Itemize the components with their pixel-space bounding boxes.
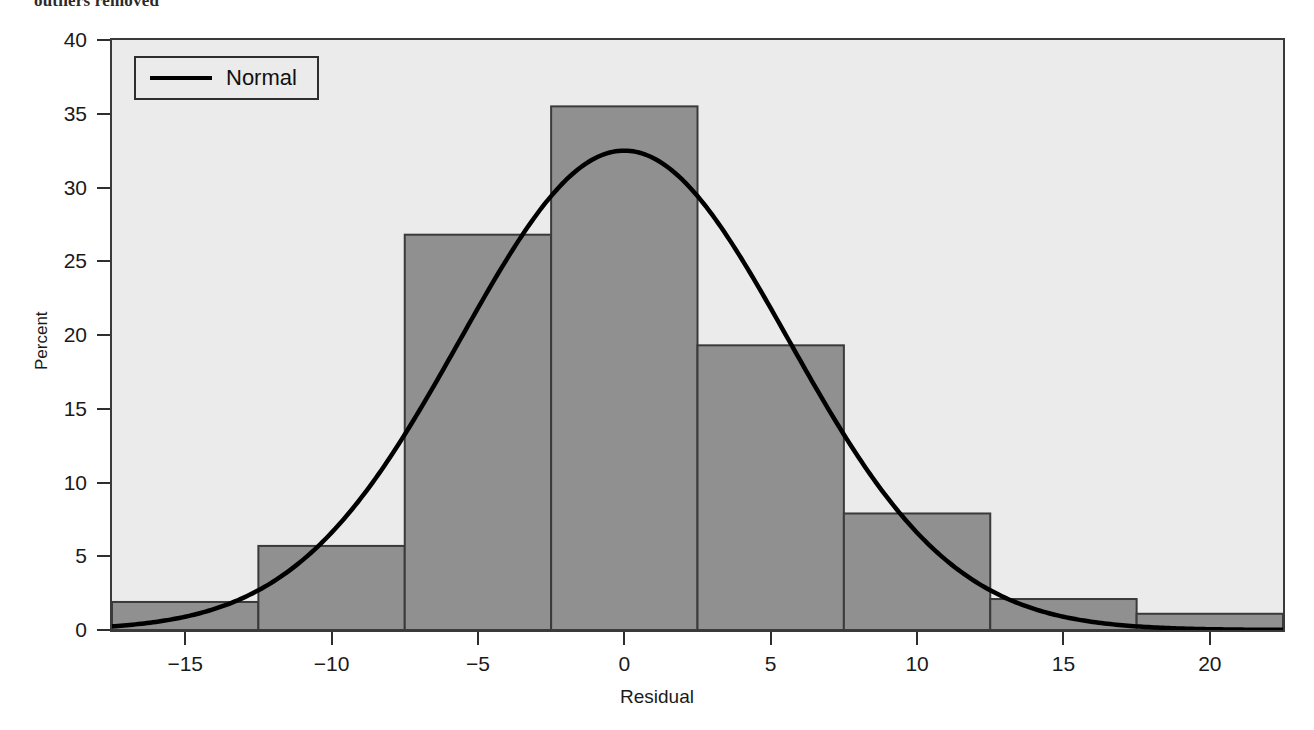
- x-tick-10: [916, 632, 918, 645]
- plot-canvas: [112, 40, 1283, 630]
- x-tick--10: [331, 632, 333, 645]
- x-tick-label--15: −15: [150, 653, 220, 674]
- histogram-bars: [112, 106, 1283, 630]
- x-tick-label-0: 0: [589, 653, 659, 674]
- histogram-bar: [258, 546, 404, 630]
- x-tick-5: [770, 632, 772, 645]
- x-tick--15: [184, 632, 186, 645]
- y-tick-25: [97, 260, 110, 262]
- x-tick-label--10: −10: [297, 653, 367, 674]
- x-tick-label--5: −5: [443, 653, 513, 674]
- x-tick-0: [623, 632, 625, 645]
- y-tick-label-10: 10: [27, 472, 87, 493]
- y-tick-5: [97, 555, 110, 557]
- y-tick-label-5: 5: [27, 545, 87, 566]
- y-tick-15: [97, 408, 110, 410]
- histogram-figure: outliers removed Percent 051015202530354…: [0, 0, 1314, 730]
- x-axis-title: Residual: [0, 686, 1314, 708]
- y-tick-label-35: 35: [27, 103, 87, 124]
- y-tick-label-25: 25: [27, 250, 87, 271]
- y-tick-20: [97, 334, 110, 336]
- y-tick-0: [97, 629, 110, 631]
- legend-line-swatch: [150, 76, 212, 80]
- legend-label-normal: Normal: [226, 67, 297, 89]
- y-tick-label-15: 15: [27, 398, 87, 419]
- plot-area: Normal: [110, 38, 1285, 632]
- x-tick-label-15: 15: [1028, 653, 1098, 674]
- y-tick-35: [97, 113, 110, 115]
- y-tick-label-30: 30: [27, 177, 87, 198]
- y-tick-label-0: 0: [27, 619, 87, 640]
- y-tick-10: [97, 482, 110, 484]
- x-tick-label-20: 20: [1175, 653, 1245, 674]
- y-tick-40: [97, 39, 110, 41]
- x-tick-20: [1209, 632, 1211, 645]
- y-tick-label-20: 20: [27, 324, 87, 345]
- y-tick-30: [97, 187, 110, 189]
- legend[interactable]: Normal: [134, 56, 319, 100]
- y-tick-label-40: 40: [27, 29, 87, 50]
- x-tick--5: [477, 632, 479, 645]
- histogram-bar: [698, 345, 844, 630]
- x-tick-label-10: 10: [882, 653, 952, 674]
- histogram-bar: [405, 235, 551, 630]
- x-tick-15: [1062, 632, 1064, 645]
- histogram-bar: [551, 106, 697, 630]
- figure-caption: outliers removed: [34, 0, 159, 11]
- x-tick-label-5: 5: [736, 653, 806, 674]
